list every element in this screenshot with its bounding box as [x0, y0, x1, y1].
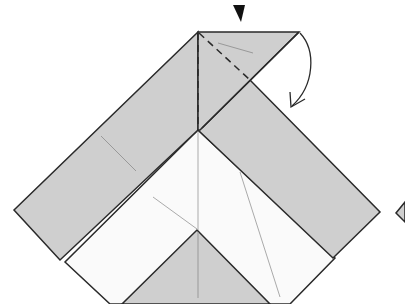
push-arrow-icon [233, 5, 245, 22]
origami-diagram [0, 0, 405, 304]
fold-arrow-icon [292, 33, 311, 106]
next-step-diagram-fragment [396, 202, 405, 222]
